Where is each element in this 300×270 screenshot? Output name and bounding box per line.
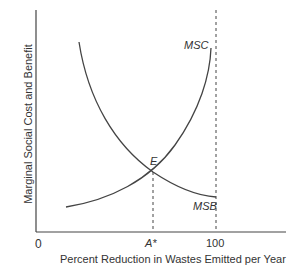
msc-curve xyxy=(66,48,211,207)
y-axis-label: Marginal Social Cost and Benefit xyxy=(22,44,34,204)
msb-label: MSB xyxy=(193,200,217,212)
hundred-label: 100 xyxy=(206,237,224,249)
diagram-canvas xyxy=(0,0,300,270)
origin-label: 0 xyxy=(35,237,42,251)
equilibrium-label: E xyxy=(150,155,157,167)
a-star-label: A* xyxy=(145,237,157,249)
x-axis-label: Percent Reduction in Wastes Emitted per … xyxy=(60,253,286,265)
msc-label: MSC xyxy=(184,39,208,51)
